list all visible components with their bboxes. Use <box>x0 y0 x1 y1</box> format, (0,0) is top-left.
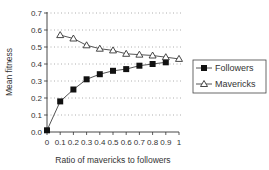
x-tick-label: 0.6 <box>121 138 133 147</box>
x-tick-label: 0.5 <box>107 138 119 147</box>
line-chart: 0.00.10.20.30.40.50.60.700.10.20.30.40.5… <box>0 0 269 170</box>
data-point-square-icon <box>150 61 156 67</box>
y-tick-label: 0.1 <box>31 111 43 120</box>
x-tick-label: 0.3 <box>81 138 93 147</box>
x-tick-label: 0.7 <box>134 138 146 147</box>
y-tick-label: 0.4 <box>31 60 43 69</box>
x-tick-label: 0.2 <box>68 138 80 147</box>
legend-followers-square-icon <box>201 65 207 71</box>
data-point-square-icon <box>97 71 103 77</box>
data-point-square-icon <box>57 98 63 104</box>
x-axis-title: Ratio of mavericks to followers <box>55 155 170 165</box>
data-point-square-icon <box>84 76 90 82</box>
legend: Followers Mavericks <box>193 60 266 93</box>
data-point-triangle-icon <box>83 42 90 48</box>
data-point-square-icon <box>163 59 169 65</box>
y-tick-label: 0.2 <box>31 94 43 103</box>
x-tick-label: 0.8 <box>147 138 159 147</box>
y-axis-title: Mean fitness <box>4 48 14 96</box>
data-point-square-icon <box>136 63 142 69</box>
x-tick-label: 1 <box>177 138 182 147</box>
data-point-square-icon <box>44 127 50 133</box>
y-tick-label: 0.7 <box>31 9 43 18</box>
x-tick-label: 0.9 <box>160 138 172 147</box>
legend-mavericks-label: Mavericks <box>215 79 256 89</box>
series-line-mavericks <box>60 35 179 59</box>
x-tick-label: 0 <box>45 138 50 147</box>
data-point-triangle-icon <box>57 32 64 38</box>
data-point-square-icon <box>110 68 116 74</box>
y-tick-label: 0.3 <box>31 77 43 86</box>
data-point-square-icon <box>123 66 129 72</box>
data-point-square-icon <box>70 87 76 93</box>
y-tick-label: 0.0 <box>31 128 43 137</box>
gridlines <box>47 13 182 115</box>
legend-followers-label: Followers <box>215 63 254 73</box>
y-tick-label: 0.6 <box>31 26 43 35</box>
series-line-followers <box>47 62 166 130</box>
x-tick-label: 0.1 <box>55 138 67 147</box>
y-tick-label: 0.5 <box>31 43 43 52</box>
x-tick-label: 0.4 <box>94 138 106 147</box>
